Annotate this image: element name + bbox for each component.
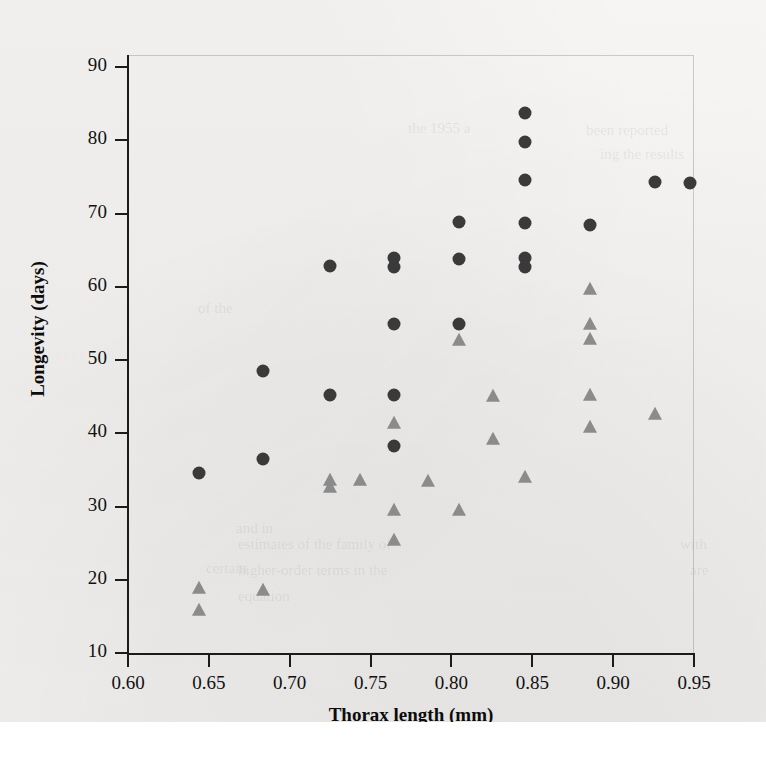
plot-area: [128, 55, 694, 654]
data-point-circle: [388, 317, 401, 330]
data-point-triangle: [648, 407, 662, 420]
data-point-triangle: [583, 317, 597, 330]
data-point-triangle: [583, 282, 597, 295]
x-tick-label-0.70: 0.70: [255, 672, 325, 694]
y-tick-label-30: 30: [63, 494, 107, 516]
data-point-circle: [323, 259, 336, 272]
data-point-circle: [257, 365, 270, 378]
y-axis-title: Longevity (days): [27, 219, 49, 439]
data-point-triangle: [452, 503, 466, 516]
data-point-circle: [519, 217, 532, 230]
data-point-triangle: [323, 480, 337, 493]
y-tick-70: [115, 213, 128, 215]
y-tick-50: [115, 359, 128, 361]
data-point-circle: [519, 106, 532, 119]
data-point-circle: [684, 177, 697, 190]
x-tick-0.95: [693, 654, 695, 667]
data-point-circle: [519, 135, 532, 148]
data-point-triangle: [353, 473, 367, 486]
data-point-triangle: [192, 603, 206, 616]
y-tick-label-80: 80: [63, 127, 107, 149]
y-tick-label-90: 90: [63, 54, 107, 76]
x-axis-line: [127, 653, 695, 655]
x-tick-0.90: [612, 654, 614, 667]
y-tick-20: [115, 579, 128, 581]
data-point-circle: [388, 439, 401, 452]
data-point-circle: [452, 215, 465, 228]
data-point-triangle: [486, 432, 500, 445]
x-tick-label-0.85: 0.85: [497, 672, 567, 694]
x-tick-label-0.75: 0.75: [336, 672, 406, 694]
data-point-triangle: [583, 388, 597, 401]
data-point-triangle: [256, 582, 270, 595]
y-tick-label-10: 10: [63, 640, 107, 662]
y-tick-60: [115, 286, 128, 288]
data-point-circle: [519, 261, 532, 274]
data-point-triangle: [452, 333, 466, 346]
x-tick-0.60: [127, 654, 129, 667]
y-tick-label-40: 40: [63, 420, 107, 442]
data-point-triangle: [387, 415, 401, 428]
data-point-circle: [452, 253, 465, 266]
data-point-circle: [648, 176, 661, 189]
data-point-circle: [257, 453, 270, 466]
data-point-triangle: [387, 503, 401, 516]
y-tick-label-60: 60: [63, 274, 107, 296]
figure-page: the 1955 abeen reporteding the resultsof…: [0, 0, 766, 782]
x-tick-0.70: [289, 654, 291, 667]
y-axis-line: [127, 55, 129, 654]
data-point-triangle: [583, 332, 597, 345]
y-tick-label-20: 20: [63, 567, 107, 589]
x-tick-label-0.60: 0.60: [93, 672, 163, 694]
data-point-circle: [452, 317, 465, 330]
y-tick-40: [115, 432, 128, 434]
x-tick-label-0.95: 0.95: [659, 672, 729, 694]
x-tick-0.65: [208, 654, 210, 667]
data-point-circle: [323, 388, 336, 401]
y-tick-80: [115, 139, 128, 141]
data-point-circle: [388, 389, 401, 402]
data-point-triangle: [518, 470, 532, 483]
x-tick-label-0.90: 0.90: [578, 672, 648, 694]
data-point-triangle: [583, 420, 597, 433]
y-tick-label-70: 70: [63, 201, 107, 223]
data-point-circle: [388, 261, 401, 274]
data-point-circle: [519, 174, 532, 187]
y-tick-label-50: 50: [63, 347, 107, 369]
x-tick-label-0.80: 0.80: [416, 672, 486, 694]
data-point-triangle: [387, 533, 401, 546]
x-tick-label-0.65: 0.65: [174, 672, 244, 694]
page-bottom-margin: [0, 722, 766, 782]
data-point-triangle: [421, 474, 435, 487]
y-tick-30: [115, 506, 128, 508]
y-tick-90: [115, 66, 128, 68]
x-tick-0.75: [370, 654, 372, 667]
data-point-circle: [583, 218, 596, 231]
x-tick-0.85: [531, 654, 533, 667]
x-tick-0.80: [450, 654, 452, 667]
data-point-triangle: [486, 389, 500, 402]
data-point-triangle: [192, 581, 206, 594]
data-point-circle: [192, 467, 205, 480]
